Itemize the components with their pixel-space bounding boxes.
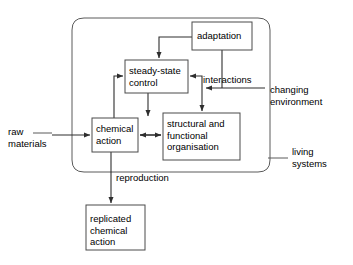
label-living-systems: living systems xyxy=(292,146,350,169)
box-replicated-chemical-action[interactable] xyxy=(86,205,145,250)
box-adaptation[interactable] xyxy=(192,22,252,50)
label-changing-environment: changing environment xyxy=(270,84,350,107)
arrow-interactions-to-steady-state xyxy=(190,76,202,88)
label-raw-materials: raw materials xyxy=(8,126,68,149)
label-interactions: interactions xyxy=(203,74,265,86)
box-structural-functional-organisation[interactable] xyxy=(163,113,240,160)
label-reproduction: reproduction xyxy=(116,172,196,184)
arrow-adaptation-to-steady-state xyxy=(159,37,192,58)
box-steady-state-control[interactable] xyxy=(125,60,188,93)
diagram-canvas: adaptation steady-state control chemical… xyxy=(0,0,353,265)
box-chemical-action[interactable] xyxy=(92,118,138,152)
arrow-chemical-action-to-steady-state xyxy=(114,76,123,120)
